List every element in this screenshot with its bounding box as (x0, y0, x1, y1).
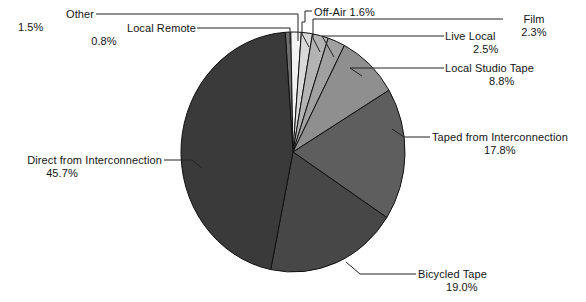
label-local-remote-value: 0.8% (50, 35, 196, 48)
label-live-local: Live Local 2.5% (445, 30, 555, 56)
label-off-air: Off-Air 1.6% (314, 6, 375, 19)
label-off-air-name: Off-Air (314, 6, 346, 18)
label-taped-from-interconnection: Taped from Interconnection 17.8% (432, 131, 586, 157)
label-live-local-value: 2.5% (445, 43, 555, 56)
label-live-local-name: Live Local (445, 30, 555, 43)
leader-bicycled (346, 262, 416, 274)
label-other-name: Other (10, 8, 94, 21)
label-local-studio-tape: Local Studio Tape 8.8% (445, 62, 575, 88)
label-local-remote: Local Remote 0.8% (50, 22, 196, 48)
label-direct-from-interconnection-value: 45.7% (2, 167, 162, 180)
label-film-name: Film (504, 13, 564, 26)
label-bicycled-tape: Bicycled Tape 19.0% (418, 268, 538, 294)
pie-slice (181, 32, 293, 269)
label-taped-from-interconnection-value: 17.8% (432, 144, 586, 157)
label-local-studio-tape-name: Local Studio Tape (445, 62, 575, 75)
label-direct-from-interconnection-name: Direct from Interconnection (2, 154, 162, 167)
label-off-air-value: 1.6% (349, 6, 374, 18)
label-direct-from-interconnection: Direct from Interconnection 45.7% (2, 154, 162, 180)
label-taped-from-interconnection-name: Taped from Interconnection (432, 131, 586, 144)
label-local-studio-tape-value: 8.8% (445, 75, 575, 88)
label-local-remote-name: Local Remote (50, 22, 196, 35)
label-bicycled-tape-value: 19.0% (418, 281, 538, 294)
label-bicycled-tape-name: Bicycled Tape (418, 268, 538, 281)
pie-chart: Other 1.5% Local Remote 0.8% Off-Air 1.6… (0, 0, 586, 302)
